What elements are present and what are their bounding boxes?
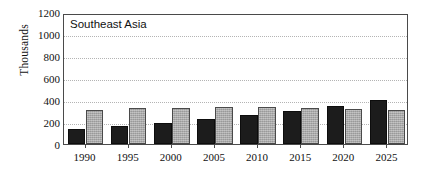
bar-dark-2010: [240, 115, 258, 144]
bar-light-2005: [215, 107, 233, 144]
y-tick-label: 1200: [22, 8, 60, 19]
x-tick-label: 2005: [191, 151, 237, 164]
y-tick-label: 200: [22, 118, 60, 129]
bar-dark-2025: [370, 100, 388, 144]
bar-group: [327, 15, 363, 145]
bar-dark-2005: [197, 119, 215, 144]
x-tick-label: 2025: [363, 151, 409, 164]
bar-group: [283, 15, 319, 145]
bar-light-2025: [388, 110, 406, 144]
x-tick: [214, 145, 215, 148]
y-tick-label: 800: [22, 52, 60, 63]
plot-area: Southeast Asia: [63, 14, 408, 146]
bar-light-2015: [301, 108, 319, 144]
x-tick: [128, 145, 129, 148]
bar-dark-2015: [283, 111, 301, 144]
bar-light-1990: [86, 110, 104, 144]
bar-dark-1990: [68, 129, 86, 144]
bars-layer: [64, 15, 407, 145]
x-tick-label: 2015: [277, 151, 323, 164]
x-tick: [343, 145, 344, 148]
bar-light-2020: [345, 109, 363, 144]
x-tick-label: 2020: [320, 151, 366, 164]
x-tick: [85, 145, 86, 148]
bar-dark-1995: [111, 126, 129, 144]
bar-group: [240, 15, 276, 145]
bar-group: [68, 15, 104, 145]
chart-title: Southeast Asia: [70, 18, 147, 31]
y-axis-tick-labels: 020040060080010001200: [22, 8, 60, 150]
bar-group: [111, 15, 147, 145]
x-tick-label: 1990: [62, 151, 108, 164]
bar-light-2010: [258, 107, 276, 144]
x-tick-label: 1995: [105, 151, 151, 164]
x-tick-label: 2000: [148, 151, 194, 164]
x-tick: [171, 145, 172, 148]
x-axis-tick-labels: 19901995200020052010201520202025: [0, 151, 429, 171]
bar-dark-2020: [327, 106, 345, 144]
bar-light-2000: [172, 108, 190, 144]
bar-group: [154, 15, 190, 145]
y-tick-label: 1000: [22, 30, 60, 41]
bar-group: [370, 15, 406, 145]
bar-light-1995: [129, 108, 147, 144]
x-tick: [257, 145, 258, 148]
bar-dark-2000: [154, 123, 172, 144]
y-tick-label: 600: [22, 74, 60, 85]
bar-chart: Thousands 020040060080010001200 Southeas…: [0, 0, 429, 178]
bar-group: [197, 15, 233, 145]
x-tick-label: 2010: [234, 151, 280, 164]
x-tick: [386, 145, 387, 148]
y-tick-label: 0: [22, 140, 60, 151]
y-tick-label: 400: [22, 96, 60, 107]
x-tick: [300, 145, 301, 148]
